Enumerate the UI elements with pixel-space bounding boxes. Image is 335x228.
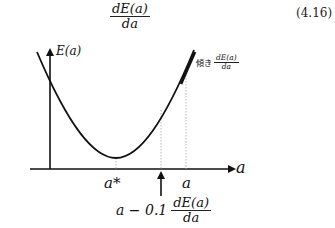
slope-prefix: 傾き [196,57,212,68]
error-curve [37,50,194,158]
update-prefix: a − 0.1 [116,202,167,218]
minimum-label: a* [104,174,120,192]
tangent-line [181,52,195,84]
y-axis-label: E(a) [56,44,81,58]
update-numerator: dE(a) [171,196,211,211]
slope-denominator: da [222,63,231,71]
current-point-label: a [182,174,191,192]
gradient-descent-figure [0,0,335,228]
update-rule: a − 0.1 dE(a) da [116,196,211,224]
x-axis-label: a [236,158,246,177]
update-denominator: da [183,211,199,225]
slope-annotation: 傾き dE(a) da [196,54,239,71]
